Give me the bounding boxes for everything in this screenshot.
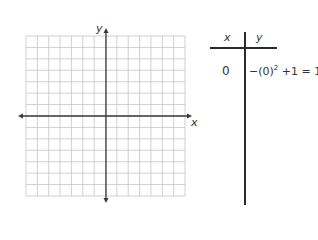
x-axis-left-arrow-icon [18,114,23,119]
x-axis-label: x [191,116,198,129]
table-column-divider [244,32,246,205]
table-header-y: y [256,31,263,44]
y-expr-suffix: +1 = 1 [278,65,318,78]
table-cell-x: 0 [222,64,230,78]
table-header-x: x [224,31,231,44]
y-axis-down-arrow-icon [104,198,109,203]
y-axis-up-arrow-icon [104,28,109,33]
x-axis [18,114,192,119]
table-cell-y: −(0)2 +1 = 1 [249,64,318,78]
y-expr-prefix: −(0) [249,65,274,78]
y-axis-label: y [96,22,103,35]
